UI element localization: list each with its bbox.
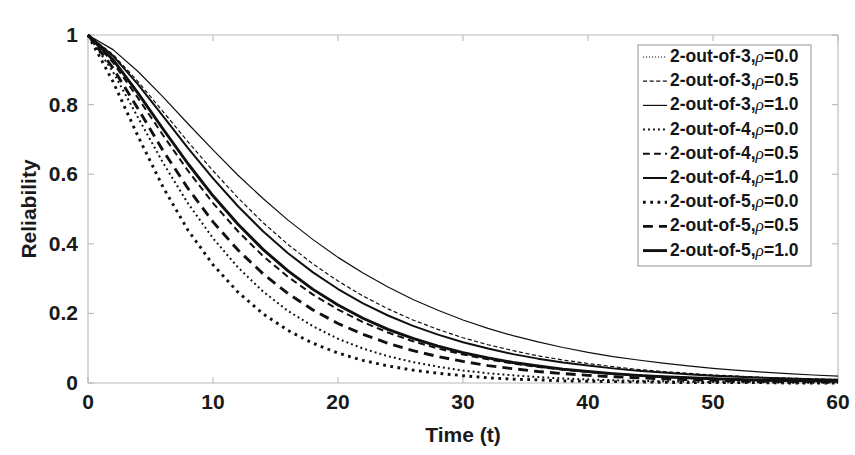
x-axis-title: Time (t) bbox=[425, 423, 500, 446]
x-tick-label: 60 bbox=[826, 390, 849, 413]
x-tick-label: 0 bbox=[82, 390, 94, 413]
y-tick-label: 0.4 bbox=[49, 232, 79, 255]
legend-label-5: 2-out-of-4,ρ=1.0 bbox=[670, 167, 799, 187]
legend-label-1: 2-out-of-3,ρ=0.5 bbox=[670, 70, 799, 90]
y-tick-label: 0.8 bbox=[49, 93, 79, 116]
legend-label-3: 2-out-of-4,ρ=0.0 bbox=[670, 119, 799, 139]
legend-label-6: 2-out-of-5,ρ=0.0 bbox=[670, 191, 799, 211]
legend-label-8: 2-out-of-5,ρ=1.0 bbox=[670, 240, 799, 260]
x-tick-label: 50 bbox=[701, 390, 724, 413]
legend: 2-out-of-3,ρ=0.02-out-of-3,ρ=0.52-out-of… bbox=[638, 45, 811, 266]
y-tick-label: 0 bbox=[66, 371, 78, 394]
legend-label-0: 2-out-of-3,ρ=0.0 bbox=[670, 46, 799, 66]
x-tick-label: 10 bbox=[201, 390, 224, 413]
legend-label-4: 2-out-of-4,ρ=0.5 bbox=[670, 143, 799, 163]
legend-label-7: 2-out-of-5,ρ=0.5 bbox=[670, 215, 799, 235]
y-tick-label: 0.6 bbox=[49, 162, 78, 185]
y-tick-label: 0.2 bbox=[49, 301, 78, 324]
legend-label-2: 2-out-of-3,ρ=1.0 bbox=[670, 94, 799, 114]
reliability-chart-figure: 0102030405060 00.20.40.60.81 Time (t) Re… bbox=[0, 0, 855, 455]
x-tick-label: 20 bbox=[326, 390, 349, 413]
x-tick-label: 40 bbox=[576, 390, 599, 413]
y-tick-label: 1 bbox=[66, 23, 78, 46]
x-tick-label: 30 bbox=[451, 390, 474, 413]
y-axis-title: Reliability bbox=[17, 159, 40, 259]
reliability-plot-svg: 0102030405060 00.20.40.60.81 Time (t) Re… bbox=[0, 0, 855, 455]
